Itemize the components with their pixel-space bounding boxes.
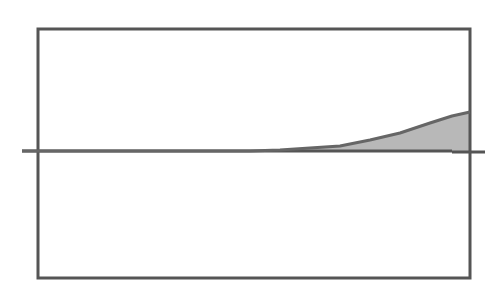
shaded-area [260, 112, 470, 151]
frame-border [38, 29, 470, 278]
diagram-canvas [0, 0, 502, 292]
